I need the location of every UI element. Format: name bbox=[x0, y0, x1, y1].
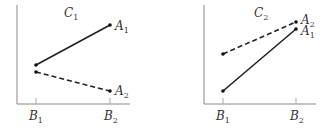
line-a1 bbox=[223, 29, 296, 91]
x-label-b2: B2 bbox=[103, 109, 118, 125]
line-a2 bbox=[36, 72, 110, 91]
point-a1-b1 bbox=[221, 89, 225, 93]
point-a1-b1 bbox=[34, 63, 38, 67]
interaction-diagram: C1 A1 A2 B1 B2 C2 A2 A1 B1 B2 bbox=[0, 0, 332, 128]
series-label-a2: A2 bbox=[114, 84, 129, 100]
point-a2-b2 bbox=[294, 20, 298, 24]
line-a1 bbox=[36, 25, 110, 65]
x-label-b2: B2 bbox=[289, 109, 304, 125]
point-a2-b2 bbox=[108, 89, 112, 93]
point-a1-b2 bbox=[108, 23, 112, 27]
panel-title: C1 bbox=[64, 6, 78, 22]
panel-c1: C1 A1 A2 B1 B2 bbox=[17, 5, 130, 125]
point-a2-b1 bbox=[221, 52, 225, 56]
series-label-a1: A1 bbox=[114, 19, 129, 35]
panel-c2: C2 A2 A1 B1 B2 bbox=[204, 5, 316, 125]
x-label-b1: B1 bbox=[28, 109, 43, 125]
point-a2-b1 bbox=[34, 70, 38, 74]
x-label-b1: B1 bbox=[215, 109, 230, 125]
panel-title: C2 bbox=[254, 6, 268, 22]
point-a1-b2 bbox=[294, 27, 298, 31]
